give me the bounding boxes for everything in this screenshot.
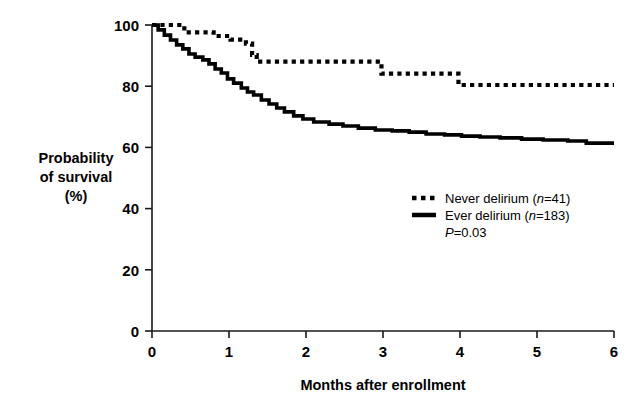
y-tick-label-40: 40 — [122, 200, 139, 217]
x-tick-labels: 0 1 2 3 4 5 6 — [148, 343, 618, 360]
legend-label-ever-delirium: Ever delirium (n=183) — [445, 208, 570, 223]
survival-curve-figure: 100 80 60 40 20 0 0 1 2 3 4 5 6 — [0, 0, 632, 413]
x-tick-label-2: 2 — [302, 343, 310, 360]
curve-ever-delirium — [152, 25, 614, 143]
x-tick-label-4: 4 — [456, 343, 465, 360]
legend-label-ever-italic-n: n — [529, 208, 536, 223]
legend-label-never-delirium: Never delirium (n=41) — [445, 191, 570, 206]
y-tick-label-20: 20 — [122, 262, 139, 279]
y-tick-label-100: 100 — [114, 17, 139, 34]
legend-pvalue-value: =0.03 — [454, 225, 487, 240]
legend-label-ever-suffix: =183) — [536, 208, 570, 223]
x-tick-label-1: 1 — [225, 343, 233, 360]
x-axis-title: Months after enrollment — [300, 377, 465, 393]
legend-pvalue: P=0.03 — [445, 225, 487, 240]
legend-label-never-italic-n: n — [537, 191, 544, 206]
y-axis-title-line2: of survival — [40, 169, 113, 185]
curve-never-delirium — [152, 25, 614, 85]
y-tick-label-0: 0 — [131, 323, 139, 340]
x-tick-label-3: 3 — [379, 343, 387, 360]
y-axis-title-line1: Probability — [39, 150, 114, 166]
y-axis-title-line3: (%) — [65, 188, 88, 204]
y-tick-label-60: 60 — [122, 139, 139, 156]
x-tick-label-5: 5 — [533, 343, 541, 360]
kaplan-meier-plot: 100 80 60 40 20 0 0 1 2 3 4 5 6 — [0, 0, 632, 413]
legend-pvalue-symbol: P — [445, 225, 454, 240]
x-tick-label-0: 0 — [148, 343, 156, 360]
y-axis-title: Probability of survival (%) — [39, 150, 114, 204]
y-tick-label-80: 80 — [122, 78, 139, 95]
legend-label-ever-prefix: Ever delirium ( — [445, 208, 529, 223]
legend-label-never-prefix: Never delirium ( — [445, 191, 537, 206]
y-tick-labels: 100 80 60 40 20 0 — [114, 17, 139, 340]
legend-label-never-suffix: =41) — [544, 191, 570, 206]
y-tick-marks — [145, 25, 152, 331]
x-tick-marks — [152, 331, 614, 338]
x-tick-label-6: 6 — [610, 343, 618, 360]
legend: Never delirium (n=41) Ever delirium (n=1… — [412, 191, 570, 240]
